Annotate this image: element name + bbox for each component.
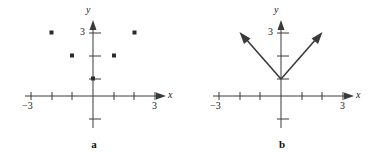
y-axis-arrow-a <box>90 20 97 30</box>
data-point <box>133 31 137 35</box>
y-max-tick-label-b: 3 <box>268 26 273 37</box>
coordinate-plane-a <box>0 0 188 140</box>
data-point <box>50 31 54 35</box>
y-axis-label-a: y <box>86 4 90 15</box>
x-min-tick-label-a: −3 <box>22 100 33 111</box>
v-right-arm <box>281 38 317 79</box>
data-point <box>112 54 116 58</box>
v-left-arm <box>245 38 281 79</box>
figure-two-panel-graphs: x y −3 3 3 a <box>0 0 376 165</box>
y-axis-arrow-b <box>278 20 285 30</box>
data-point <box>70 54 74 58</box>
x-min-tick-label-b: −3 <box>210 100 221 111</box>
y-axis-label-b: y <box>274 4 278 15</box>
panel-a: x y −3 3 3 a <box>0 0 188 165</box>
x-axis-arrow-a <box>156 93 166 100</box>
x-axis-label-a: x <box>168 89 172 100</box>
x-max-tick-label-a: 3 <box>152 100 157 111</box>
x-axis-arrow-b <box>344 93 354 100</box>
panel-caption-b: b <box>188 138 376 150</box>
x-axis-label-b: x <box>356 89 360 100</box>
data-point <box>91 77 95 81</box>
panel-b: x y −3 3 3 b <box>188 0 376 165</box>
x-max-tick-label-b: 3 <box>340 100 345 111</box>
y-max-tick-label-a: 3 <box>80 26 85 37</box>
coordinate-plane-b <box>188 0 376 140</box>
panel-caption-a: a <box>0 138 188 150</box>
